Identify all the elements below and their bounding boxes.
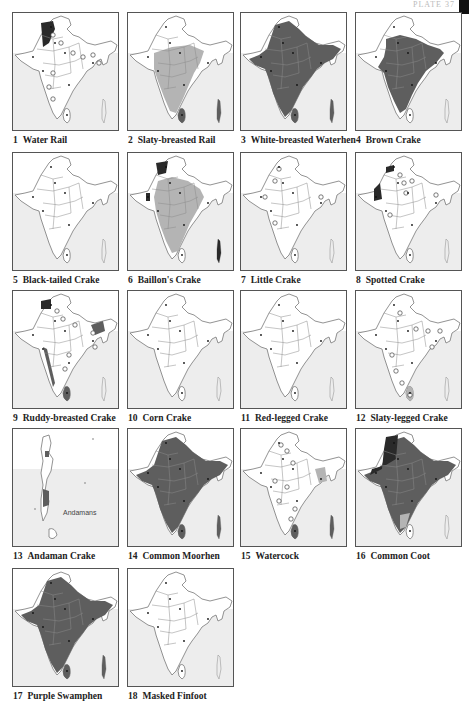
range-map-9 (12, 290, 119, 409)
map-number: 1 (13, 135, 18, 145)
range-map-2 (127, 12, 234, 131)
map-number: 5 (13, 275, 18, 285)
map-number: 17 (13, 691, 23, 701)
map-number: 10 (128, 413, 138, 423)
map-caption: 1Water Rail (13, 135, 67, 145)
map-number: 2 (128, 135, 133, 145)
range-map-7 (240, 152, 347, 271)
species-name: Corn Crake (143, 413, 192, 423)
species-name: Water Rail (23, 135, 67, 145)
range-map-4 (355, 12, 462, 131)
range-map-3 (240, 12, 347, 131)
map-caption: 18Masked Finfoot (128, 691, 207, 701)
range-map-15 (240, 428, 347, 547)
range-map-5 (12, 152, 119, 271)
map-caption: 5Black-tailed Crake (13, 275, 100, 285)
species-name: Brown Crake (366, 135, 421, 145)
india-outline-map (128, 291, 233, 408)
species-name: Common Moorhen (143, 551, 220, 561)
species-name: White-breasted Waterhen (251, 135, 356, 145)
india-outline-map (241, 291, 346, 408)
map-number: 13 (13, 551, 23, 561)
map-caption: 14Common Moorhen (128, 551, 220, 561)
range-map-14 (127, 428, 234, 547)
inset-label: Andamans (63, 509, 97, 516)
range-map-11 (240, 290, 347, 409)
range-map-1 (12, 12, 119, 131)
map-caption: 15Watercock (241, 551, 299, 561)
map-number: 9 (13, 413, 18, 423)
species-name: Andaman Crake (28, 551, 96, 561)
species-name: Common Coot (371, 551, 430, 561)
species-name: Little Crake (251, 275, 301, 285)
india-outline-map (356, 291, 461, 408)
india-outline-map (241, 429, 346, 546)
species-name: Spotted Crake (366, 275, 425, 285)
map-caption: 3White-breasted Waterhen (241, 135, 356, 145)
map-caption: 4Brown Crake (356, 135, 421, 145)
india-outline-map (128, 569, 233, 686)
species-name: Slaty-legged Crake (371, 413, 448, 423)
range-map-6 (127, 152, 234, 271)
india-outline-map (13, 153, 118, 270)
map-number: 7 (241, 275, 246, 285)
india-outline-map (13, 569, 118, 686)
map-caption: 11Red-legged Crake (241, 413, 328, 423)
india-outline-map (13, 291, 118, 408)
map-number: 6 (128, 275, 133, 285)
map-caption: 17Purple Swamphen (13, 691, 102, 701)
species-name: Ruddy-breasted Crake (23, 413, 116, 423)
species-name: Red-legged Crake (255, 413, 328, 423)
india-outline-map (356, 13, 461, 130)
india-outline-map (356, 429, 461, 546)
range-map-13: Andamans (12, 428, 119, 547)
range-map-8 (355, 152, 462, 271)
map-caption: 10Corn Crake (128, 413, 191, 423)
map-caption: 12Slaty-legged Crake (356, 413, 448, 423)
india-outline-map (356, 153, 461, 270)
map-caption: 16Common Coot (356, 551, 430, 561)
range-map-16 (355, 428, 462, 547)
range-map-12 (355, 290, 462, 409)
map-caption: 13Andaman Crake (13, 551, 95, 561)
plate-header: PLATE 37 (413, 0, 455, 9)
species-name: Baillon's Crake (138, 275, 201, 285)
map-number: 4 (356, 135, 361, 145)
india-outline-map (241, 13, 346, 130)
map-caption: 8Spotted Crake (356, 275, 425, 285)
range-map-18 (127, 568, 234, 687)
species-name: Slaty-breasted Rail (138, 135, 216, 145)
map-number: 11 (241, 413, 250, 423)
species-name: Black-tailed Crake (23, 275, 100, 285)
species-name: Masked Finfoot (143, 691, 207, 701)
map-number: 3 (241, 135, 246, 145)
range-map-17 (12, 568, 119, 687)
map-number: 15 (241, 551, 251, 561)
india-outline-map (128, 153, 233, 270)
map-caption: 9Ruddy-breasted Crake (13, 413, 116, 423)
species-name: Purple Swamphen (28, 691, 103, 701)
map-number: 8 (356, 275, 361, 285)
map-number: 16 (356, 551, 366, 561)
map-number: 18 (128, 691, 138, 701)
india-outline-map (241, 153, 346, 270)
map-caption: 6Baillon's Crake (128, 275, 201, 285)
map-caption: 2Slaty-breasted Rail (128, 135, 215, 145)
india-outline-map (13, 13, 118, 130)
india-outline-map (128, 429, 233, 546)
india-outline-map: Andamans (13, 429, 118, 546)
india-outline-map (128, 13, 233, 130)
species-name: Watercock (256, 551, 300, 561)
range-map-10 (127, 290, 234, 409)
map-caption: 7Little Crake (241, 275, 301, 285)
map-number: 14 (128, 551, 138, 561)
map-number: 12 (356, 413, 366, 423)
